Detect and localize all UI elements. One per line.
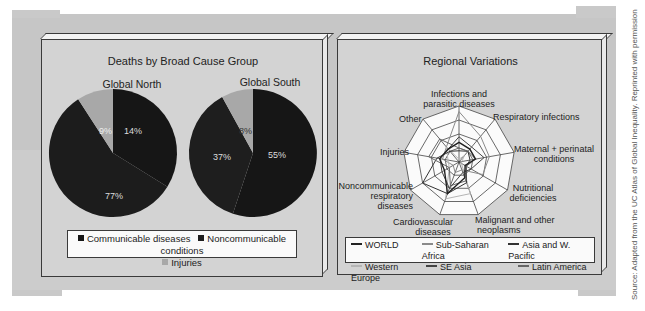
legend-swatch-injuries <box>162 259 168 265</box>
axis-label-malignant: Malignant and other neoplasms <box>475 215 575 235</box>
legend-row-1: WORLD Sub-Saharan Africa Asia and W. Pac… <box>351 240 594 262</box>
legend-item-western-europe: Western Europe <box>351 262 426 284</box>
pie-south-communicable-pct: 55% <box>268 150 286 160</box>
corner-tab-left <box>12 10 60 18</box>
pie-south-noncommunicable-pct: 37% <box>213 152 231 162</box>
legend-line-se-asia <box>426 265 437 267</box>
legend-item-asia-w-pacific: Asia and W. Pacific <box>508 240 594 262</box>
axis-label-injuries: Injuries <box>380 147 409 157</box>
pie-north-injuries-pct: 9% <box>99 126 112 136</box>
legend-item-injuries: Injuries <box>162 257 202 268</box>
axis-label-respiratory-infections: Respiratory infections <box>493 112 580 122</box>
right-panel: Regional Variations Infecti <box>337 39 602 275</box>
legend-line-world <box>351 243 362 245</box>
legend-line-western-europe <box>351 265 362 267</box>
pie-north-communicable-pct: 14% <box>124 126 142 136</box>
legend-item-sub-saharan-africa: Sub-Saharan Africa <box>422 240 509 262</box>
pie-south-injuries-pct: 8% <box>239 126 252 136</box>
legend-item-world: WORLD <box>351 240 422 262</box>
legend-item-latin-america: Latin America <box>518 262 587 284</box>
axis-label-noncommunicable-respiratory: Noncommunicable respiratory diseases <box>334 181 413 211</box>
right-legend: WORLD Sub-Saharan Africa Asia and W. Pac… <box>345 237 595 263</box>
corner-tab-right <box>576 6 616 18</box>
legend-line-latin-america <box>518 265 529 267</box>
legend-line-asia-w-pacific <box>508 243 519 245</box>
axis-label-infections: Infections and parasitic diseases <box>408 89 510 109</box>
legend-row-2: Western Europe SE Asia Latin America <box>351 262 594 284</box>
source-note: Source: Adapted from the UC Atlas of Glo… <box>630 9 639 300</box>
axis-label-maternal: Maternal + perinatal conditions <box>509 144 599 164</box>
legend-item-se-asia: SE Asia <box>426 262 518 284</box>
pie-north-noncommunicable-pct: 77% <box>105 191 123 201</box>
left-panel: Deaths by Broad Cause Group Global North… <box>41 39 323 277</box>
bottom-strip-left <box>12 290 62 296</box>
legend-swatch-communicable <box>78 235 84 241</box>
left-legend: Communicable diseases Noncommunicable co… <box>67 230 297 258</box>
axis-label-nutritional: Nutritional deficiencies <box>508 183 558 203</box>
legend-line-sub-saharan-africa <box>422 243 433 245</box>
axis-label-cardiovascular: Cardiovascular diseases <box>388 217 458 237</box>
legend-item-communicable: Communicable diseases <box>78 233 191 244</box>
axis-label-other: Other <box>399 114 422 124</box>
legend-swatch-noncommunicable <box>198 235 204 241</box>
bottom-strip-right <box>578 290 616 296</box>
